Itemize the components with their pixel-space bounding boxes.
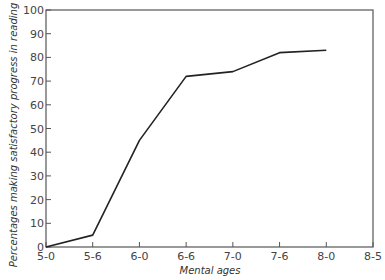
y-tick-label: 50 [30,123,44,136]
y-tick-label: 80 [30,51,44,64]
y-tick-label: 40 [30,146,44,159]
plot-frame [46,10,373,247]
x-tick-label: 5-6 [84,250,102,263]
x-axis: 5-05-66-06-67-07-68-08-5 [37,242,382,263]
y-tick-label: 30 [30,170,44,183]
series-line [46,50,326,247]
y-tick-label: 60 [30,99,44,112]
plot-border [46,10,373,247]
x-tick-label: 8-0 [317,250,335,263]
y-axis-title: Percentages making satisfactory progress… [8,3,19,267]
x-tick-label: 7-0 [224,250,242,263]
y-tick-label: 70 [30,75,44,88]
y-tick-label: 100 [23,4,44,17]
y-axis: 0102030405060708090100 [23,4,51,254]
data-series [46,50,326,247]
x-tick-label: 5-0 [37,250,55,263]
x-tick-label: 8-5 [364,250,382,263]
x-tick-label: 6-0 [130,250,148,263]
y-tick-label: 90 [30,28,44,41]
x-axis-title: Mental ages [180,265,241,276]
y-tick-label: 20 [30,194,44,207]
x-tick-label: 7-6 [271,250,289,263]
x-tick-label: 6-6 [177,250,195,263]
line-chart: 0102030405060708090100 5-05-66-06-67-07-… [0,0,385,280]
y-tick-label: 10 [30,217,44,230]
